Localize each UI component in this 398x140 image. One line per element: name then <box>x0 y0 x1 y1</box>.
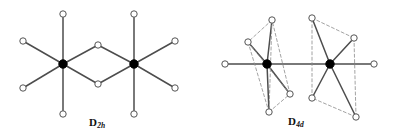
atom-ligand-l-up <box>60 11 66 17</box>
atom-ligand-r-downright <box>172 85 178 91</box>
atom-ligand-rb-bottom <box>353 114 359 120</box>
bond-solid <box>23 64 63 88</box>
bond-solid <box>134 41 175 64</box>
atom-terminal-left <box>222 61 228 67</box>
bond-solid <box>330 64 356 117</box>
vertices-d2h <box>20 11 178 117</box>
bonds-d2h <box>23 14 175 114</box>
bond-solid <box>267 64 269 112</box>
figure-canvas: D2h D4d <box>0 0 398 140</box>
atom-ligand-l-down <box>60 111 66 117</box>
bond-dashed <box>354 38 356 117</box>
molecular-structures-figure <box>0 0 398 140</box>
bonds-layer <box>23 14 374 117</box>
atom-ligand-r-down <box>131 111 137 117</box>
bond-solid <box>98 45 134 64</box>
structure-label-d2h-main: D <box>89 116 97 128</box>
bond-dashed <box>312 98 356 117</box>
atom-ligand-la-lower <box>287 91 293 97</box>
structure-label-d2h-subscript: 2h <box>97 121 105 130</box>
bond-dashed <box>248 20 272 42</box>
bond-dashed <box>269 94 290 112</box>
bond-dashed <box>248 42 269 112</box>
atom-metal-left <box>263 60 271 68</box>
bond-solid <box>98 64 134 84</box>
atom-bridge-top <box>95 42 101 48</box>
atom-terminal-right <box>371 61 377 67</box>
atom-ligand-rb-lower <box>309 95 315 101</box>
atom-ligand-r-upright <box>172 38 178 44</box>
atom-ligand-la-bottom <box>266 109 272 115</box>
bond-solid <box>63 45 98 64</box>
vertices-d4d <box>222 15 377 120</box>
atom-ligand-rb-upper <box>351 35 357 41</box>
structure-label-d2h: D2h <box>89 116 105 128</box>
atom-metal-right <box>326 60 334 68</box>
bond-solid <box>330 38 354 64</box>
atom-ligand-la-top <box>269 17 275 23</box>
bonds-d4d <box>225 18 374 117</box>
atom-metal-left <box>59 60 67 68</box>
vertices-layer <box>20 11 377 120</box>
atom-ligand-l-downleft <box>20 85 26 91</box>
atom-metal-right <box>130 60 138 68</box>
bond-solid <box>312 64 330 98</box>
atom-ligand-rb-top <box>309 15 315 21</box>
structure-label-d4d-main: D <box>288 115 296 127</box>
atom-ligand-l-upleft <box>20 38 26 44</box>
structure-label-d4d-subscript: 4d <box>296 120 304 129</box>
bond-solid <box>63 64 98 84</box>
bond-solid <box>134 64 175 88</box>
atom-bridge-bottom <box>95 81 101 87</box>
structure-label-d4d: D4d <box>288 115 304 127</box>
atom-ligand-la-upper <box>245 39 251 45</box>
bond-solid <box>23 41 63 64</box>
atom-ligand-r-up <box>131 11 137 17</box>
